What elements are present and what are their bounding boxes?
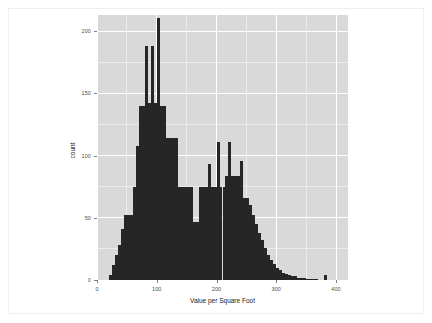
gridline-vertical-minor: [306, 15, 307, 280]
gridline-vertical: [336, 15, 337, 280]
chart-panel: [97, 15, 348, 280]
x-tick-label: 100: [152, 286, 161, 292]
y-tick-label: 50: [61, 215, 91, 221]
x-tick-label: 300: [272, 286, 281, 292]
y-tick-mark: [94, 218, 97, 219]
x-tick-label: 400: [331, 286, 340, 292]
x-tick-mark: [336, 280, 337, 283]
y-tick-mark: [94, 156, 97, 157]
gridline-vertical: [276, 15, 277, 280]
x-tick-mark: [276, 280, 277, 283]
plot-area: 050100150200 0100200300400 Value per Squ…: [9, 9, 425, 315]
x-tick-label: 0: [95, 286, 98, 292]
gridline-horizontal: [97, 155, 348, 156]
gridline-horizontal-minor: [97, 62, 348, 63]
x-tick-mark: [157, 280, 158, 283]
x-tick-mark: [217, 280, 218, 283]
x-axis-title: Value per Square Foot: [97, 297, 348, 304]
figure-frame: 050100150200 0100200300400 Value per Squ…: [8, 8, 424, 314]
gridline-horizontal: [97, 93, 348, 94]
gridline-horizontal: [97, 31, 348, 32]
x-tick-mark: [97, 280, 98, 283]
y-axis-title: count: [69, 143, 76, 159]
histogram-bar: [324, 275, 327, 280]
y-tick-mark: [94, 31, 97, 32]
histogram-bar: [315, 279, 318, 280]
x-tick-label: 200: [212, 286, 221, 292]
y-tick-mark: [94, 93, 97, 94]
y-tick-label: 150: [61, 90, 91, 96]
y-tick-label: 200: [61, 28, 91, 34]
gridline-vertical: [97, 15, 98, 280]
y-tick-label: 0: [61, 277, 91, 283]
gridline-horizontal-minor: [97, 124, 348, 125]
